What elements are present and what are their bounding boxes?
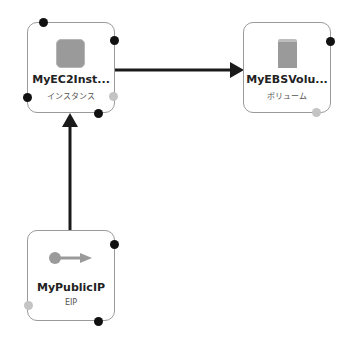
anchor-handle[interactable] [94, 109, 103, 118]
node-ec2-instance[interactable]: MyEC2Inst... インスタンス [27, 22, 115, 113]
node-subtitle: インスタンス [28, 90, 114, 101]
diagram-canvas: MyEC2Inst... インスタンス MyEBSVolu... ボリューム M… [0, 0, 354, 345]
anchor-handle[interactable] [94, 317, 103, 326]
node-ebs-volume[interactable]: MyEBSVolu... ボリューム [243, 22, 331, 113]
anchor-handle[interactable] [24, 301, 33, 310]
anchor-handle[interactable] [23, 93, 32, 102]
anchor-handle[interactable] [110, 36, 119, 45]
node-elastic-ip[interactable]: MyPublicIP EIP [27, 230, 115, 321]
node-subtitle: EIP [28, 298, 114, 307]
anchor-handle[interactable] [110, 240, 119, 249]
node-title: MyEC2Inst... [28, 73, 114, 86]
node-title: MyPublicIP [28, 281, 114, 294]
node-title: MyEBSVolu... [244, 73, 330, 86]
node-subtitle: ボリューム [244, 90, 330, 101]
edge-ec2-to-ebs[interactable] [115, 62, 244, 78]
ec2-instance-icon [56, 39, 85, 68]
edge-eip-to-ec2[interactable] [62, 113, 78, 230]
elastic-ip-icon [48, 250, 94, 266]
anchor-handle[interactable] [39, 18, 48, 27]
anchor-handle[interactable] [312, 108, 321, 117]
ebs-volume-icon [278, 39, 297, 68]
anchor-handle[interactable] [326, 37, 335, 46]
anchor-handle[interactable] [109, 92, 118, 101]
